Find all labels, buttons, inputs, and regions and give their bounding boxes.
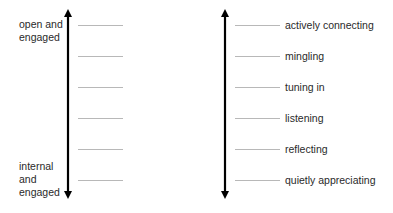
left-bottom-label-line-2: and	[19, 173, 60, 186]
right-tick-6	[235, 180, 280, 181]
left-top-label: open and engaged	[19, 18, 63, 44]
left-tick-6	[78, 180, 123, 181]
left-tick-1	[78, 25, 123, 26]
left-tick-5	[78, 149, 123, 150]
level-label-mingling: mingling	[285, 50, 324, 62]
left-tick-3	[78, 87, 123, 88]
level-label-actively-connecting: actively connecting	[285, 19, 374, 31]
right-tick-4	[235, 118, 280, 119]
right-tick-1	[235, 25, 280, 26]
left-bottom-label-line-3: engaged	[19, 186, 60, 199]
left-bottom-label-line-1: internal	[19, 160, 60, 173]
level-label-tuning-in: tuning in	[285, 81, 325, 93]
level-label-reflecting: reflecting	[285, 143, 328, 155]
right-double-arrow-icon	[221, 9, 229, 199]
level-label-listening: listening	[285, 112, 324, 124]
left-bottom-label: internal and engaged	[19, 160, 60, 199]
right-tick-2	[235, 56, 280, 57]
left-top-label-line-1: open and	[19, 18, 63, 31]
left-tick-4	[78, 118, 123, 119]
left-top-label-line-2: engaged	[19, 31, 63, 44]
right-tick-5	[235, 149, 280, 150]
left-double-arrow-icon	[64, 9, 72, 199]
right-tick-3	[235, 87, 280, 88]
level-label-quietly-appreciating: quietly appreciating	[285, 174, 375, 186]
left-tick-2	[78, 56, 123, 57]
